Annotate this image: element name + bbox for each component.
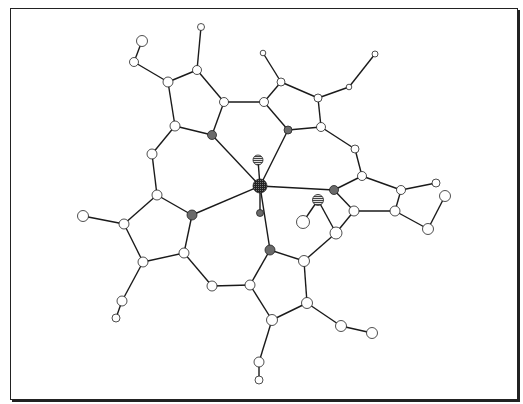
- atom-carbon-S12: [112, 314, 120, 322]
- bond: [122, 262, 143, 301]
- bond: [362, 176, 401, 190]
- bond: [401, 183, 436, 190]
- bond: [288, 127, 321, 130]
- atom-carbon-S5: [346, 84, 352, 90]
- atom-carbon-C5: [260, 98, 269, 107]
- atom-metal-M: [253, 179, 267, 193]
- atom-carbon-S3: [198, 24, 205, 31]
- bond: [349, 54, 375, 87]
- atom-carbon-S8: [440, 191, 451, 202]
- bond: [168, 82, 175, 126]
- bond-layer: [83, 27, 445, 380]
- atom-carbon-C1: [170, 121, 180, 131]
- atom-carbon-S4: [260, 50, 266, 56]
- atom-nitrogen-N3: [330, 186, 339, 195]
- atom-carbon-C16: [245, 280, 255, 290]
- bond: [184, 253, 212, 286]
- bond: [192, 186, 260, 215]
- atom-carbon-C2: [163, 77, 173, 87]
- molecule-diagram: [0, 0, 523, 404]
- bond: [152, 154, 157, 195]
- atom-carbon-S10: [78, 211, 89, 222]
- atom-carbon-L2: [297, 216, 310, 229]
- atom-carbon-B4: [207, 281, 217, 291]
- atom-carbon-C9: [358, 172, 367, 181]
- atom-carbon-S15: [254, 357, 264, 367]
- atom-carbon-C7: [314, 94, 322, 102]
- bond: [260, 186, 334, 190]
- atom-carbon-S2: [137, 36, 148, 47]
- atom-carbon-S1: [130, 58, 139, 67]
- bond: [318, 87, 349, 98]
- atom-nitrogen-N2: [284, 126, 292, 134]
- atom-carbon-S9: [423, 224, 434, 235]
- bond: [124, 224, 143, 262]
- bond: [184, 215, 192, 253]
- bond: [175, 126, 212, 135]
- bond: [212, 102, 224, 135]
- atom-carbon-C15: [267, 315, 278, 326]
- atom-nitrogen-Ax2: [257, 210, 264, 217]
- bond: [250, 250, 270, 285]
- bond: [197, 70, 224, 102]
- atom-carbon-S11: [117, 296, 127, 306]
- atom-carbon-B3: [330, 227, 342, 239]
- bond: [304, 261, 307, 303]
- atom-carbon-C10: [397, 186, 406, 195]
- atom-carbon-S13: [336, 321, 347, 332]
- atom-ligand-L1: [313, 195, 324, 206]
- bond: [197, 27, 201, 70]
- bond: [143, 253, 184, 262]
- atom-carbon-C19: [138, 257, 148, 267]
- bond: [152, 126, 175, 154]
- atom-carbon-C11: [390, 206, 400, 216]
- bond: [83, 216, 124, 224]
- bond: [260, 186, 270, 250]
- atom-carbon-C17: [152, 190, 162, 200]
- atom-nitrogen-N4: [265, 245, 275, 255]
- atom-carbon-S6: [372, 51, 378, 57]
- bond: [260, 130, 288, 186]
- atom-carbon-C8: [317, 123, 326, 132]
- bond: [124, 195, 157, 224]
- atom-carbon-C18: [119, 219, 129, 229]
- atom-carbon-C13: [299, 256, 310, 267]
- atom-nitrogen-N5: [187, 210, 197, 220]
- bond: [157, 195, 192, 215]
- bond: [259, 320, 272, 362]
- bond: [212, 285, 250, 286]
- bond: [321, 127, 355, 149]
- atom-carbon-S14: [367, 328, 378, 339]
- atom-carbon-B1: [147, 149, 157, 159]
- atom-carbon-S16: [255, 376, 263, 384]
- atom-layer: [78, 24, 451, 385]
- bond: [281, 82, 318, 98]
- atom-carbon-S7: [432, 179, 440, 187]
- bond: [134, 62, 168, 82]
- atom-ligand-Ax1: [253, 155, 263, 165]
- atom-carbon-C3: [193, 66, 202, 75]
- atom-carbon-C14: [302, 298, 313, 309]
- atom-carbon-C12: [349, 206, 359, 216]
- bond: [307, 303, 341, 326]
- bond: [263, 53, 281, 82]
- bond: [264, 102, 288, 130]
- atom-nitrogen-N1: [208, 131, 217, 140]
- atom-carbon-C20: [179, 248, 189, 258]
- atom-carbon-C6: [277, 78, 285, 86]
- atom-carbon-C4: [220, 98, 229, 107]
- atom-carbon-B2: [351, 145, 359, 153]
- bond: [250, 285, 272, 320]
